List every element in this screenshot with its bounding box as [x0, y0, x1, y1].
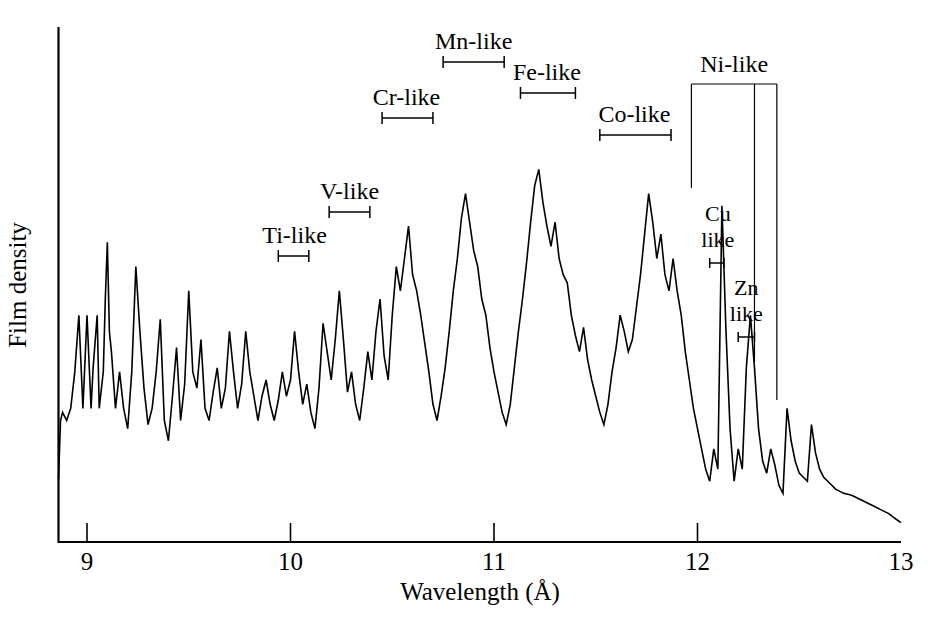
x-tick-label: 13 [889, 548, 914, 575]
annotation-label-zn-like-line2: like [730, 301, 763, 326]
annotation-label-mn-like: Mn-like [435, 28, 512, 54]
x-tick-label: 9 [81, 548, 94, 575]
x-tick-label: 11 [482, 548, 506, 575]
spectrum-chart: 910111213 Ti-likeV-likeCr-likeMn-likeFe-… [0, 0, 930, 629]
x-tick-label: 12 [685, 548, 710, 575]
annotation-label-cr-like: Cr-like [373, 84, 441, 110]
annotation-label-cu-like-line2: like [701, 227, 734, 252]
x-axis-label: Wavelength (Å) [400, 578, 560, 606]
annotation-label-zn-like-line1: Zn [734, 275, 758, 300]
annotation-label-co-like: Co-like [598, 101, 670, 127]
x-axis-ticks: 910111213 [81, 523, 914, 575]
annotation-label-cu-like-line1: Cu [705, 201, 731, 226]
annotation-label-ti-like: Ti-like [262, 222, 326, 248]
annotation-label-ni-like: Ni-like [700, 51, 768, 77]
series-annotations: Ti-likeV-likeCr-likeMn-likeFe-likeCo-lik… [262, 28, 777, 400]
x-tick-label: 10 [278, 548, 303, 575]
y-axis-label: Film density [4, 222, 31, 348]
annotation-label-fe-like: Fe-like [513, 59, 581, 85]
chart-figure: 910111213 Ti-likeV-likeCr-likeMn-likeFe-… [0, 0, 930, 629]
spectrum-trace [59, 169, 901, 522]
annotation-label-v-like: V-like [320, 178, 379, 204]
